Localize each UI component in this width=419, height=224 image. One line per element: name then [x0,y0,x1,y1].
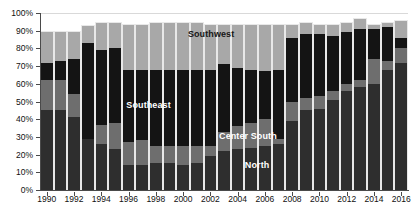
bar-segment [217,64,231,131]
bar-segment [40,110,54,190]
bar-column [54,13,68,190]
bar-segment [381,70,395,190]
bar-column [176,13,190,190]
bar-segment [299,22,313,34]
bar-segment [149,146,163,164]
bar-segment [108,149,122,190]
x-axis-tick-label: 1992 [65,195,84,204]
x-axis-tick-label: 2010 [310,195,329,204]
x-axis-tick-mark [319,192,320,196]
bar-column [231,13,245,190]
bar-segment [353,29,367,80]
bar-segment [244,24,258,70]
bar-segment [299,110,313,190]
x-axis-tick-mark [74,192,75,196]
bar-segment [299,98,313,110]
bar-segment [176,146,190,165]
bar-segment [95,22,109,50]
bar-segment [81,25,95,43]
x-axis-tick-label: 2006 [255,195,274,204]
bar-segment [381,27,395,61]
bar-segment [67,59,81,94]
bar-segment [95,125,109,144]
x-axis-tick-mark [347,192,348,196]
bar-column [299,13,313,190]
series-label-southwest: Southwest [188,30,234,39]
bar-segment [163,22,177,70]
bar-segment [122,142,136,165]
bar-segment [244,70,258,123]
bar-segment [204,70,218,146]
y-axis-tick-label: 30% [16,133,33,142]
bar-segment [190,163,204,190]
bar-column [108,13,122,190]
series-label-north: North [245,161,270,170]
bar-segment [313,96,327,108]
bar-column [204,13,218,190]
bar-column [367,13,381,190]
bar-segment [204,146,218,157]
bar-column [67,13,81,190]
bar-segment [313,24,327,35]
x-axis-tick-mark [374,192,375,196]
x-axis: 1990199219941996199820002002200420062008… [40,192,408,214]
bar-segment [394,63,408,190]
bar-segment [163,163,177,190]
bar-segment [299,34,313,98]
bar-column [326,13,340,190]
bar-segment [231,68,245,126]
y-axis-tick-label: 40% [16,115,33,124]
bar-segment [258,24,272,72]
series-label-southeast: Southeast [126,101,170,110]
bar-segment [108,22,122,49]
y-axis-tick-label: 10% [16,168,33,177]
bar-segment [135,140,149,165]
x-axis-tick-mark [183,192,184,196]
bar-column [394,13,408,190]
bar-segment [272,70,286,139]
x-axis-tick-mark [401,192,402,196]
bar-segment [81,139,95,190]
bar-segment [258,71,272,119]
bar-segment [367,24,381,29]
x-axis-tick-label: 2012 [337,195,356,204]
stacked-bar-chart: 0%10%20%30%40%50%60%70%80%90%100% Southw… [0,0,419,224]
x-axis-tick-label: 1998 [146,195,165,204]
bar-segment [190,146,204,164]
y-axis-tick-label: 100% [11,9,33,18]
bar-segment [285,38,299,102]
bar-column [381,13,395,190]
y-axis-tick-label: 0% [21,186,33,195]
bar-segment [204,156,218,190]
bar-column [340,13,354,190]
bar-segment [353,18,367,29]
bar-column [313,13,327,190]
x-axis-tick-label: 2002 [201,195,220,204]
bar-segment [367,84,381,190]
bar-segment [285,121,299,190]
bar-column [217,13,231,190]
x-axis-tick-label: 2004 [228,195,247,204]
bar-segment [381,22,395,27]
bar-segment [95,144,109,190]
bar-column [272,13,286,190]
y-axis-tick-label: 50% [16,97,33,106]
bar-segment [40,31,54,63]
bar-segment [81,43,95,139]
x-axis-tick-mark [101,192,102,196]
bar-segment [95,50,109,124]
x-axis-tick-mark [210,192,211,196]
bar-segment [381,61,395,70]
bar-segment [54,31,68,61]
bar-segment [67,117,81,190]
bar-segment [272,24,286,70]
bar-segment [176,165,190,190]
bar-segment [313,34,327,96]
x-axis-tick-label: 1994 [92,195,111,204]
x-axis-line [40,190,409,191]
bar-segment [54,61,68,80]
bar-segment [313,109,327,190]
bar-segment [149,22,163,70]
bar-segment [394,20,408,38]
bar-segment [40,80,54,110]
